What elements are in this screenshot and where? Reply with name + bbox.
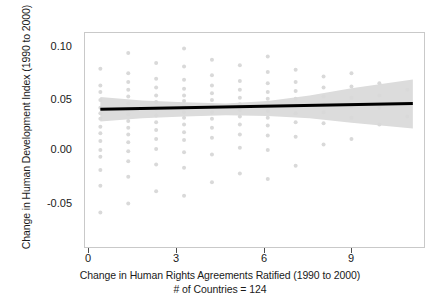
- scatter-point: [238, 171, 242, 175]
- scatter-point: [294, 164, 298, 168]
- scatter-point: [238, 63, 242, 67]
- scatter-point: [210, 126, 214, 130]
- scatter-point: [182, 64, 186, 68]
- scatter-point: [98, 210, 102, 214]
- scatter-point: [98, 168, 102, 172]
- scatter-point: [294, 111, 298, 115]
- scatter-point: [377, 122, 381, 126]
- scatter-point: [126, 95, 130, 99]
- x-tick-label-3: 9: [336, 252, 366, 265]
- scatter-point: [126, 119, 130, 123]
- scatter-point: [349, 71, 353, 75]
- scatter-point: [349, 116, 353, 120]
- scatter-point: [98, 148, 102, 152]
- scatter-point: [126, 132, 130, 136]
- scatter-point: [294, 80, 298, 84]
- scatter-point: [322, 86, 326, 90]
- scatter-point: [154, 77, 158, 81]
- scatter-point: [349, 96, 353, 100]
- scatter-point: [322, 142, 326, 146]
- scatter-point: [98, 117, 102, 121]
- scatter-point: [98, 139, 102, 143]
- scatter-point: [322, 121, 326, 125]
- scatter-point: [126, 101, 130, 105]
- y-tick-label-1: 0.05: [30, 93, 72, 105]
- scatter-point: [154, 147, 158, 151]
- scatter-point: [182, 116, 186, 120]
- chart-figure: Change in Human Development Index (1990 …: [0, 0, 440, 308]
- scatter-point: [182, 138, 186, 142]
- scatter-point: [210, 73, 214, 77]
- scatter-point: [238, 79, 242, 83]
- scatter-point: [154, 100, 158, 104]
- scatter-point: [126, 112, 130, 116]
- scatter-point: [182, 194, 186, 198]
- scatter-point: [154, 86, 158, 90]
- y-tick-label-3: -0.05: [30, 197, 72, 209]
- scatter-point: [210, 83, 214, 87]
- scatter-point: [182, 130, 186, 134]
- scatter-point: [98, 83, 102, 87]
- scatter-point: [377, 106, 381, 110]
- scatter-point: [182, 93, 186, 97]
- scatter-point: [182, 87, 186, 91]
- scatter-point: [238, 122, 242, 126]
- scatter-point: [266, 116, 270, 120]
- scatter-point: [182, 110, 186, 114]
- scatter-point: [98, 98, 102, 102]
- scatter-point: [294, 97, 298, 101]
- scatter-point: [210, 98, 214, 102]
- scatter-point: [126, 88, 130, 92]
- scatter-point: [154, 120, 158, 124]
- plot-svg: [85, 33, 424, 247]
- scatter-point: [377, 81, 381, 85]
- scatter-point: [126, 126, 130, 130]
- y-tick-label-0: 0.10: [30, 40, 72, 52]
- scatter-point: [349, 137, 353, 141]
- scatter-point: [182, 78, 186, 82]
- scatter-point: [210, 136, 214, 140]
- scatter-point: [126, 140, 130, 144]
- scatter-point: [154, 189, 158, 193]
- scatter-point: [154, 93, 158, 97]
- scatter-point: [98, 111, 102, 115]
- x-axis-title: Change in Human Rights Agreements Ratifi…: [0, 268, 440, 282]
- scatter-point: [294, 135, 298, 139]
- scatter-point: [126, 202, 130, 206]
- scatter-point: [126, 71, 130, 75]
- scatter-point: [377, 93, 381, 97]
- scatter-point: [154, 61, 158, 65]
- scatter-point: [266, 148, 270, 152]
- scatter-point: [210, 58, 214, 62]
- scatter-point: [266, 177, 270, 181]
- x-tick-label-2: 6: [249, 252, 279, 265]
- scatter-point: [322, 95, 326, 99]
- scatter-point: [98, 67, 102, 71]
- scatter-point: [154, 137, 158, 141]
- y-tick-label-2: 0.00: [30, 143, 72, 155]
- scatter-point: [266, 134, 270, 138]
- scatter-point: [405, 115, 409, 119]
- scatter-point: [98, 155, 102, 159]
- scatter-points: [98, 47, 409, 215]
- scatter-point: [294, 89, 298, 93]
- x-tick-label-0: 0: [73, 252, 103, 265]
- scatter-point: [238, 88, 242, 92]
- scatter-point: [98, 131, 102, 135]
- scatter-point: [266, 70, 270, 74]
- scatter-point: [210, 152, 214, 156]
- scatter-point: [238, 115, 242, 119]
- scatter-point: [349, 85, 353, 89]
- scatter-point: [182, 47, 186, 51]
- scatter-point: [98, 125, 102, 129]
- scatter-point: [154, 113, 158, 117]
- scatter-point: [266, 109, 270, 113]
- y-axis-ticks: 0.10 0.05 0.00 -0.05: [28, 0, 72, 308]
- scatter-point: [266, 97, 270, 101]
- scatter-point: [182, 166, 186, 170]
- scatter-point: [266, 124, 270, 128]
- scatter-point: [210, 117, 214, 121]
- x-axis-subtitle: # of Countries = 124: [0, 282, 440, 296]
- scatter-point: [154, 163, 158, 167]
- scatter-point: [322, 74, 326, 78]
